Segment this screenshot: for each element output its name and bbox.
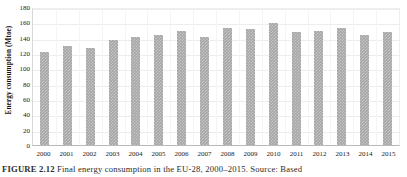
x-tick-label: 2013 (331, 148, 354, 160)
x-tick-label: 2009 (239, 148, 262, 160)
bar-slot (147, 9, 170, 145)
bar[interactable] (246, 29, 255, 145)
figure-caption: FIGURE 2.12 Final energy consumption in … (2, 164, 405, 175)
bar[interactable] (40, 52, 49, 145)
bars-layer (33, 9, 399, 145)
bar[interactable] (200, 37, 209, 145)
y-tick-label: 160 (8, 20, 30, 27)
bar-slot (102, 9, 125, 145)
x-tick-label: 2008 (216, 148, 239, 160)
bar[interactable] (292, 32, 301, 145)
y-tick-label: 80 (8, 81, 30, 88)
x-tick-label: 2005 (147, 148, 170, 160)
bar-slot (330, 9, 353, 145)
bar[interactable] (63, 46, 72, 145)
x-tick-label: 2003 (101, 148, 124, 160)
x-tick-label: 2001 (55, 148, 78, 160)
bar-slot (353, 9, 376, 145)
bar[interactable] (314, 31, 323, 145)
bar-chart: Energy consumption (Mtoe) 02040608010012… (0, 0, 407, 162)
y-tick-label: 60 (8, 97, 30, 104)
bar[interactable] (109, 40, 118, 145)
bar[interactable] (269, 23, 278, 145)
figure-caption-label: FIGURE 2.12 (2, 164, 55, 174)
bar-slot (193, 9, 216, 145)
x-tick-label: 2011 (285, 148, 308, 160)
x-axis-tick-labels: 2000200120022003200420052006200720082009… (32, 148, 400, 160)
bar-slot (285, 9, 308, 145)
bar-slot (56, 9, 79, 145)
bar[interactable] (383, 32, 392, 145)
x-tick-label: 2012 (308, 148, 331, 160)
bar[interactable] (223, 28, 232, 145)
figure-caption-text: Final energy consumption in the EU-28, 2… (57, 164, 302, 174)
bar-slot (125, 9, 148, 145)
x-tick-label: 2006 (170, 148, 193, 160)
bar-slot (308, 9, 331, 145)
figure-container: Energy consumption (Mtoe) 02040608010012… (0, 0, 407, 177)
bar-slot (376, 9, 399, 145)
bar-slot (33, 9, 56, 145)
bar[interactable] (131, 37, 140, 145)
bar[interactable] (337, 28, 346, 145)
bar[interactable] (86, 48, 95, 145)
bar-slot (170, 9, 193, 145)
y-tick-label: 40 (8, 112, 30, 119)
x-tick-label: 2010 (262, 148, 285, 160)
y-axis-tick-labels: 020406080100120140160180 (8, 8, 30, 146)
y-tick-label: 20 (8, 127, 30, 134)
bar-slot (262, 9, 285, 145)
y-tick-label: 180 (8, 5, 30, 12)
y-tick-label: 0 (8, 143, 30, 150)
x-tick-label: 2015 (377, 148, 400, 160)
x-tick-label: 2004 (124, 148, 147, 160)
bar-slot (239, 9, 262, 145)
bar-slot (216, 9, 239, 145)
bar[interactable] (360, 35, 369, 145)
bar-slot (79, 9, 102, 145)
x-tick-label: 2002 (78, 148, 101, 160)
x-tick-label: 2014 (354, 148, 377, 160)
x-tick-label: 2000 (32, 148, 55, 160)
x-tick-label: 2007 (193, 148, 216, 160)
y-tick-label: 100 (8, 66, 30, 73)
y-tick-label: 140 (8, 35, 30, 42)
bar[interactable] (154, 35, 163, 145)
plot-area (32, 8, 400, 146)
bar[interactable] (177, 31, 186, 145)
y-tick-label: 120 (8, 51, 30, 58)
